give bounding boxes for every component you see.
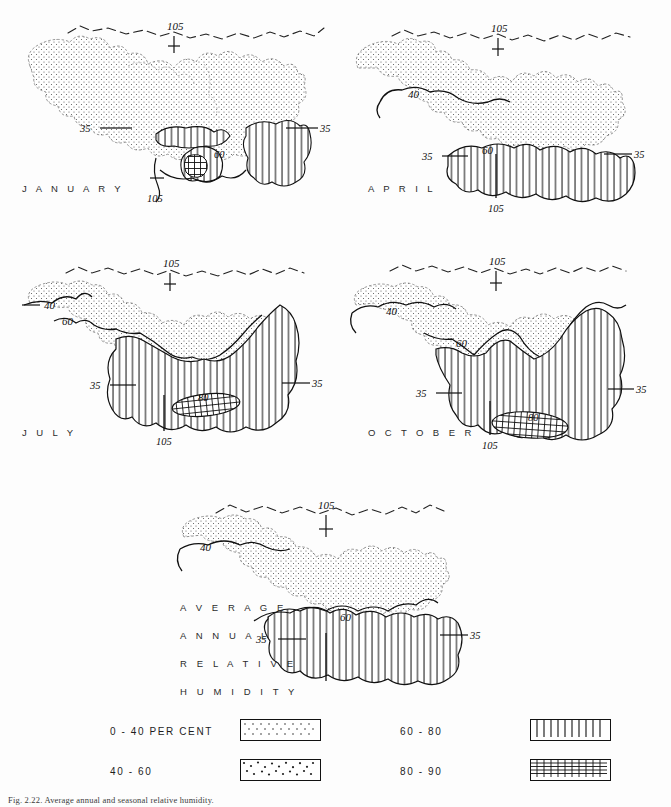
boundary-dashed — [392, 30, 630, 41]
contour-label-40: 40 — [408, 88, 420, 100]
isoline-40-tail — [177, 549, 182, 571]
legend-label-0-40: 0 - 40 PER CENT — [110, 726, 213, 737]
contour-label-35-right: 35 — [469, 630, 481, 641]
map-annual: 105 40 60 35 35 — [150, 485, 550, 705]
boundary-dashed — [390, 265, 626, 274]
panel-label-october: O C T O B E R — [368, 427, 475, 438]
contour-label-105-lower: 105 — [488, 203, 504, 214]
region-60-80 — [264, 607, 462, 684]
legend-swatch-40-60 — [240, 759, 321, 781]
legend-swatch-80-90 — [530, 759, 611, 781]
panel-label-january: J A N U A R Y — [22, 183, 124, 194]
contour-label-60: 60 — [340, 611, 352, 623]
contour-label-105-lower: 105 — [482, 440, 498, 451]
contour-label-60: 60 — [482, 144, 494, 156]
region-60-80 — [156, 127, 230, 148]
contour-label-105: 105 — [318, 499, 335, 511]
panel-label-july: J U L Y — [22, 427, 76, 438]
contour-label-60: 60 — [214, 149, 225, 160]
block-title-line-2: A N N U A L — [180, 630, 270, 641]
contour-label-40: 40 — [386, 305, 398, 317]
contour-label-35-right: 35 — [635, 384, 647, 395]
legend-label-40-60: 40 - 60 — [110, 766, 152, 777]
figure-page: 105 60 105 35 35 J — [0, 0, 671, 807]
legend: 0 - 40 PER CENT 60 - 80 — [0, 714, 671, 784]
contour-label-105-lower: 105 — [156, 436, 172, 447]
swatch-cross-hatch — [531, 760, 607, 777]
swatch-coarse-dots — [241, 760, 317, 777]
contour-label-40: 40 — [200, 541, 212, 553]
swatch-fine-dots — [241, 720, 317, 737]
contour-label-60: 60 — [456, 337, 468, 349]
region-0-40 — [356, 38, 625, 150]
contour-label-105: 105 — [489, 255, 506, 267]
legend-swatch-60-80 — [530, 719, 611, 741]
contour-label-105-lower: 105 — [147, 193, 163, 204]
contour-label-35-left: 35 — [421, 151, 433, 162]
legend-item-60-80: 60 - 80 — [400, 719, 650, 747]
legend-item-0-40: 0 - 40 PER CENT — [110, 719, 360, 747]
boundary-dashed — [66, 267, 304, 276]
contour-label-60: 60 — [62, 315, 74, 327]
legend-swatch-0-40 — [240, 719, 321, 741]
isoline-40-tail — [351, 313, 356, 333]
block-title-line-1: A V E R A G E — [180, 602, 287, 613]
contour-label-40: 40 — [44, 299, 56, 311]
contour-label-35-left: 35 — [89, 380, 101, 391]
map-panel-annual: 105 40 60 35 35 — [150, 485, 550, 705]
region-60-80 — [447, 144, 635, 202]
region-60-80 — [243, 120, 311, 186]
block-title-line-3: R E L A T I V E — [180, 658, 297, 669]
region-0-40 — [182, 515, 449, 615]
contour-label-35-right: 35 — [311, 378, 323, 389]
contour-label-80: 80 — [528, 412, 539, 423]
legend-item-80-90: 80 - 90 — [400, 759, 650, 787]
legend-item-40-60: 40 - 60 — [110, 759, 360, 787]
block-title-line-4: H U M I D I T Y — [180, 686, 298, 697]
panel-label-april: A P R I L — [368, 183, 436, 194]
contour-label-35-right: 35 — [319, 123, 331, 134]
contour-label-35-right: 35 — [633, 149, 645, 160]
contour-label-35-left: 35 — [79, 123, 91, 134]
contour-label-35-left: 35 — [415, 388, 427, 399]
swatch-vertical-lines — [531, 720, 607, 737]
isoline-40-tail — [377, 102, 380, 118]
contour-label-105: 105 — [491, 22, 508, 34]
contour-label-105: 105 — [163, 257, 180, 269]
contour-label-105: 105 — [167, 20, 184, 32]
boundary-dashed — [68, 26, 324, 39]
contour-label-80: 80 — [198, 392, 209, 403]
legend-label-80-90: 80 - 90 — [400, 766, 442, 777]
figure-caption: Fig. 2.22. Average annual and seasonal r… — [8, 795, 214, 805]
legend-label-60-80: 60 - 80 — [400, 726, 442, 737]
region-80-90 — [184, 155, 207, 178]
